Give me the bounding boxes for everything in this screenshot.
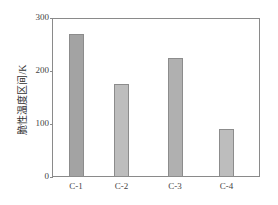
y-tick-label: 200: [25, 65, 49, 75]
x-tick-label: C-4: [212, 181, 242, 191]
y-tick-mark: [50, 71, 53, 72]
x-tick-label: C-1: [61, 181, 91, 191]
y-tick-mark: [50, 177, 53, 178]
y-tick-label: 100: [25, 118, 49, 128]
bar-c-2: [114, 84, 129, 177]
bar-c-3: [168, 58, 183, 177]
y-tick-mark: [50, 124, 53, 125]
x-tick-label: C-3: [160, 181, 190, 191]
bar-c-1: [69, 34, 84, 177]
y-tick-label: 300: [25, 12, 49, 22]
y-tick-mark: [50, 18, 53, 19]
bar-c-4: [219, 129, 234, 177]
y-axis-label: 脆性温度区间/K: [14, 55, 29, 145]
x-tick-label: C-2: [107, 181, 137, 191]
y-tick-label: 0: [25, 171, 49, 181]
bar-chart: 0100200300 C-1C-2C-3C-4 脆性温度区间/K: [0, 0, 278, 205]
